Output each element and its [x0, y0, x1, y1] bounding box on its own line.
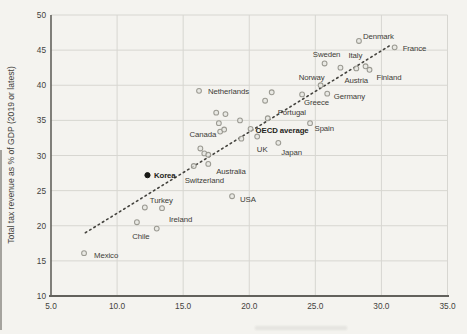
y-tick-label: 25 — [37, 186, 47, 196]
data-point — [263, 98, 268, 103]
data-point-greece-label: Greece — [304, 98, 329, 107]
data-point-finland-label: Finland — [377, 73, 402, 82]
data-point-portugal — [265, 116, 270, 121]
data-point-denmark-label: Denmark — [363, 32, 394, 41]
data-point-australia-label: Australia — [216, 167, 246, 176]
data-point-japan — [276, 140, 281, 145]
data-point — [239, 136, 244, 141]
data-point-switzerland — [191, 164, 196, 169]
x-tick-label: 10.0 — [109, 301, 126, 311]
x-tick-label: 20.0 — [241, 301, 258, 311]
data-point-usa — [230, 194, 235, 199]
y-tick-label: 45 — [37, 45, 47, 55]
data-point-uk-label: UK — [257, 145, 269, 154]
data-point-norway — [318, 83, 323, 88]
x-tick-label: 25.0 — [307, 301, 324, 311]
data-point — [363, 64, 368, 69]
x-tick-label: 15.0 — [175, 301, 192, 311]
y-tick-label: 20 — [37, 221, 47, 231]
data-point-mexico-label: Mexico — [94, 251, 119, 260]
trend-line — [85, 46, 389, 233]
data-point-spain-label: Spain — [315, 124, 334, 133]
data-point-switzerland-label: Switzerland — [185, 176, 224, 185]
data-point-denmark — [357, 39, 362, 44]
data-point-finland — [367, 67, 372, 72]
data-point — [206, 152, 211, 157]
data-point-canada-label: Canada — [189, 130, 216, 139]
y-tick-labels: 504540353025201510 — [37, 10, 47, 301]
data-point — [216, 121, 221, 126]
data-point-austria — [338, 65, 343, 70]
data-point-norway-label: Norway — [299, 73, 325, 82]
x-tick-labels: 5.010.015.020.025.030.035.0 — [45, 301, 456, 311]
x-tick-label: 30.0 — [373, 301, 390, 311]
cut-off-axis-label-remnant — [255, 326, 347, 330]
data-point-usa-label: USA — [240, 195, 257, 204]
data-point-netherlands-label: Netherlands — [208, 87, 249, 96]
scan-edge-artifact — [0, 150, 2, 330]
data-point-austria-label: Austria — [344, 76, 368, 85]
data-point — [238, 118, 243, 123]
data-point-netherlands — [197, 88, 202, 93]
data-point-greece — [300, 92, 305, 97]
y-tick-label: 15 — [37, 256, 47, 266]
y-tick-label: 40 — [37, 80, 47, 90]
y-tick-label: 50 — [37, 10, 47, 20]
y-tick-label: 35 — [37, 115, 47, 125]
data-point-turkey — [142, 205, 147, 210]
data-point-france — [392, 45, 397, 50]
data-point-mexico — [82, 251, 87, 256]
data-point-portugal-label: Portugal — [278, 108, 307, 117]
data-point-italy-label: Italy — [348, 51, 362, 60]
data-point-ireland — [160, 206, 165, 211]
data-point-japan-label: Japan — [281, 148, 302, 157]
data-point-italy — [354, 66, 359, 71]
data-point-korea-label: Korea — [154, 171, 176, 180]
data-point-sweden — [322, 61, 327, 66]
y-tick-label: 10 — [37, 291, 47, 301]
data-point-oecd-average — [248, 126, 253, 131]
data-point-france-label: France — [403, 44, 427, 53]
data-point-turkey-label: Turkey — [150, 196, 173, 205]
data-point-uk — [255, 134, 260, 139]
plot-area: MexicoChileTurkeyIrelandKoreaSwitzerland… — [0, 0, 467, 334]
y-tick-label: 30 — [37, 151, 47, 161]
data-point — [198, 146, 203, 151]
data-point-germany-label: Germany — [334, 92, 366, 101]
data-point — [154, 226, 159, 231]
x-tick-label: 35.0 — [439, 301, 456, 311]
data-point-oecd-average-label: OECD average — [256, 126, 310, 135]
data-point-ireland-label: Ireland — [169, 215, 192, 224]
data-point-canada — [222, 127, 227, 132]
data-point-chile-label: Chile — [132, 232, 149, 241]
x-tick-label: 5.0 — [45, 301, 57, 311]
data-point-germany — [325, 91, 330, 96]
data-point-korea — [145, 173, 150, 178]
data-point — [223, 112, 228, 117]
data-point — [269, 90, 274, 95]
data-point-sweden-label: Sweden — [313, 50, 341, 59]
data-point — [214, 110, 219, 115]
y-axis-title: Total tax revenue as % of GDP (2019 or l… — [6, 66, 16, 244]
data-point-australia — [206, 162, 211, 167]
data-point-chile — [135, 220, 140, 225]
